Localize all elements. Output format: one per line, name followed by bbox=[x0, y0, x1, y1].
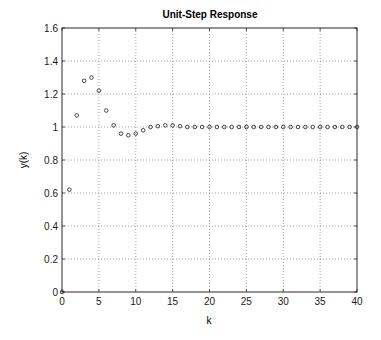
grid-lines bbox=[62, 28, 357, 292]
y-tick-label: 1.6 bbox=[44, 23, 58, 34]
y-tick-label: 1.2 bbox=[44, 89, 58, 100]
data-point-marker bbox=[104, 109, 108, 113]
data-point-marker bbox=[82, 79, 86, 83]
data-point-marker bbox=[75, 114, 79, 118]
x-tick-label: 40 bbox=[351, 296, 363, 307]
data-point-marker bbox=[333, 125, 337, 129]
x-tick-label: 20 bbox=[204, 296, 216, 307]
data-point-marker bbox=[90, 76, 94, 80]
x-tick-label: 15 bbox=[167, 296, 179, 307]
data-point-marker bbox=[178, 124, 182, 128]
y-tick-label: 1.4 bbox=[44, 56, 58, 67]
data-point-marker bbox=[340, 125, 344, 129]
y-tick-label: 0 bbox=[52, 287, 58, 298]
data-point-marker bbox=[68, 188, 72, 192]
y-tick-label: 0.4 bbox=[44, 221, 58, 232]
x-tick-label: 35 bbox=[315, 296, 327, 307]
x-tick-label: 5 bbox=[96, 296, 102, 307]
y-tick-label: 1 bbox=[52, 122, 58, 133]
x-tick-label: 25 bbox=[241, 296, 253, 307]
data-point-marker bbox=[127, 133, 131, 137]
y-tick-label: 0.8 bbox=[44, 155, 58, 166]
data-point-marker bbox=[259, 125, 263, 129]
data-point-marker bbox=[119, 132, 123, 136]
y-axis-label: y(k) bbox=[18, 152, 29, 169]
chart-title: Unit-Step Response bbox=[162, 9, 257, 20]
x-tick-label: 10 bbox=[130, 296, 142, 307]
y-tick-label: 0.2 bbox=[44, 254, 58, 265]
unit-step-response-chart: Unit-Step Response 0510152025303540 00.2… bbox=[0, 0, 381, 340]
y-tick-label: 0.6 bbox=[44, 188, 58, 199]
data-point-marker bbox=[252, 125, 256, 129]
x-tick-label: 30 bbox=[278, 296, 290, 307]
x-axis-label: k bbox=[207, 315, 213, 326]
data-point-marker bbox=[163, 124, 167, 128]
x-axis-ticks: 0510152025303540 bbox=[59, 28, 363, 307]
x-tick-label: 0 bbox=[59, 296, 65, 307]
data-point-marker bbox=[156, 124, 160, 128]
data-point-marker bbox=[141, 129, 145, 133]
